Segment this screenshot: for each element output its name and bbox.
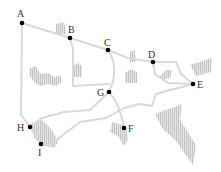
- region-block: [56, 22, 66, 34]
- region-block: [73, 63, 82, 77]
- map-diagram: A B C D E F G H I: [0, 0, 221, 172]
- road-d-loop: [153, 62, 193, 84]
- road-d-e: [153, 62, 193, 84]
- node-f[interactable]: [122, 126, 127, 131]
- node-a[interactable]: [20, 21, 25, 26]
- node-e[interactable]: [191, 82, 196, 87]
- road-b-c: [70, 38, 108, 50]
- node-h[interactable]: [28, 125, 33, 130]
- node-label-c: C: [104, 37, 111, 48]
- node-label-b: B: [68, 24, 75, 35]
- map-canvas: A B C D E F G H I: [0, 0, 221, 172]
- node-label-g: G: [97, 87, 104, 98]
- road-c-g: [108, 50, 114, 92]
- road-a-h: [21, 23, 30, 127]
- region-block: [130, 50, 136, 62]
- node-i[interactable]: [39, 142, 44, 147]
- region-forest: [30, 66, 62, 86]
- node-label-f: F: [128, 123, 134, 134]
- node-label-d: D: [148, 49, 155, 60]
- region-block: [190, 58, 212, 76]
- region-block: [110, 122, 128, 146]
- node-label-e: E: [197, 79, 203, 90]
- node-label-i: I: [38, 147, 41, 158]
- region-block: [125, 69, 137, 83]
- node-label-h: H: [17, 122, 24, 133]
- node-d[interactable]: [151, 60, 156, 65]
- node-c[interactable]: [106, 48, 111, 53]
- node-label-a: A: [17, 8, 25, 19]
- node-b[interactable]: [68, 36, 73, 41]
- map-regions: [30, 22, 212, 165]
- node-g[interactable]: [107, 90, 112, 95]
- region-strip: [155, 104, 196, 165]
